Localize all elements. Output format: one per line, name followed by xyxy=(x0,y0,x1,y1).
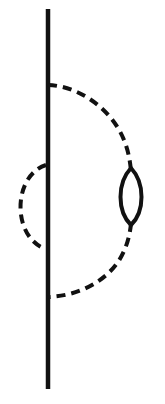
fermion-loop xyxy=(121,168,142,225)
inner-propagator xyxy=(21,165,47,249)
feynman-diagram xyxy=(0,0,165,404)
outer-propagator-lower xyxy=(48,223,131,297)
diagram-svg xyxy=(0,0,165,404)
outer-propagator-upper xyxy=(48,85,131,171)
